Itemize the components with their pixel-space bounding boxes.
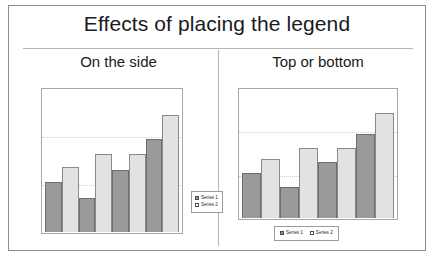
chart-legend-bottom-box[interactable]: Series 1 Series 2: [274, 226, 339, 241]
legend-entry-series1: Series 1: [195, 195, 218, 202]
slide-canvas: Effects of placing the legend On the sid…: [8, 5, 426, 251]
bar-group: [112, 92, 146, 232]
legend-entry-series2: Series 2: [310, 230, 333, 237]
bar-group: [79, 92, 113, 232]
bar-series2: [162, 115, 179, 232]
legend-entry-series1: Series 1: [280, 230, 303, 237]
panel-legend-top-or-bottom: Top or bottom: [219, 50, 417, 246]
legend-entry-series2: Series 2: [195, 202, 218, 209]
legend-label-series2: Series 2: [201, 202, 218, 209]
legend-label-series1: Series 1: [201, 195, 218, 202]
bar-series1: [242, 173, 261, 218]
panel-legend-on-side: On the side: [19, 50, 218, 246]
bar-series1: [79, 198, 96, 232]
bar-series1: [45, 182, 62, 232]
chart-legend-bottom: Series 1 Series 2: [238, 88, 398, 220]
bar-group-container-right: [242, 92, 394, 218]
bar-series2: [375, 113, 394, 218]
bar-series2: [261, 159, 280, 218]
bar-series1: [280, 187, 299, 218]
plot-area-left: [41, 88, 183, 234]
bar-series2: [299, 148, 318, 218]
legend-swatch-series2-icon: [195, 203, 199, 207]
bar-series1: [146, 139, 163, 232]
page-title: Effects of placing the legend: [9, 12, 425, 36]
legend-swatch-series2-icon: [310, 231, 314, 235]
bar-series2: [95, 154, 112, 232]
bar-series1: [356, 134, 375, 218]
bar-series1: [112, 170, 129, 232]
bar-series2: [129, 154, 146, 232]
legend-swatch-series1-icon: [195, 196, 199, 200]
bar-group: [356, 92, 394, 218]
bar-group: [146, 92, 180, 232]
panel-heading-left: On the side: [19, 53, 218, 70]
legend-label-series1: Series 1: [286, 230, 303, 237]
bar-series2: [62, 167, 79, 232]
plot-area-right: [238, 88, 398, 220]
bar-series1: [318, 162, 337, 218]
legend-swatch-series1-icon: [280, 231, 284, 235]
bar-group-container-left: [45, 92, 179, 232]
bar-group: [280, 92, 318, 218]
bar-group: [242, 92, 280, 218]
bar-group: [318, 92, 356, 218]
bar-group: [45, 92, 79, 232]
legend-label-series2: Series 2: [316, 230, 333, 237]
title-divider: [23, 48, 413, 49]
panel-heading-right: Top or bottom: [219, 53, 417, 70]
bar-series2: [337, 148, 356, 218]
chart-legend-on-side: [41, 88, 183, 234]
